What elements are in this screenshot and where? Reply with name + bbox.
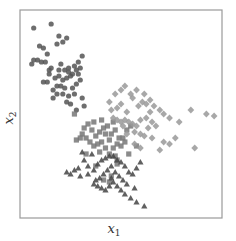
square-marker	[82, 125, 87, 130]
diamond-marker	[106, 99, 113, 106]
circle-marker	[60, 77, 65, 82]
diamond-marker	[166, 141, 173, 148]
circle-marker	[72, 91, 77, 96]
triangle-marker	[131, 185, 137, 191]
triangle-marker	[112, 169, 118, 175]
triangle-marker	[77, 173, 83, 179]
circle-marker	[51, 87, 56, 92]
diamond-marker	[133, 87, 140, 94]
triangle-marker	[137, 159, 143, 165]
diamond-marker	[187, 107, 194, 114]
circle-marker	[51, 95, 56, 100]
diamond-marker	[191, 145, 198, 152]
circle-marker	[49, 21, 54, 26]
circle-marker	[60, 91, 65, 96]
square-marker	[99, 117, 104, 122]
circle-marker	[82, 103, 87, 108]
circle-marker	[76, 71, 81, 76]
diamond-marker	[131, 129, 138, 136]
y-axis-label: x2	[1, 111, 18, 124]
diamond-marker	[112, 91, 119, 98]
circle-marker	[45, 51, 50, 56]
triangle-marker	[81, 157, 87, 163]
diamond-marker	[211, 113, 218, 120]
diamond-marker	[203, 111, 210, 118]
triangle-marker	[108, 163, 114, 169]
data-points	[29, 21, 217, 208]
square-marker	[97, 149, 102, 154]
circle-marker	[66, 93, 71, 98]
triangle-marker	[75, 165, 81, 171]
square-marker	[89, 127, 94, 132]
circle-marker	[66, 65, 71, 70]
triangle-marker	[64, 169, 70, 175]
circle-marker	[70, 85, 75, 90]
circle-marker	[43, 59, 48, 64]
circle-marker	[54, 41, 59, 46]
diamond-marker	[172, 135, 179, 142]
circle-marker	[80, 53, 85, 58]
triangle-marker	[89, 151, 95, 157]
diamond-marker	[176, 119, 183, 126]
circle-marker	[54, 91, 59, 96]
square-marker	[103, 131, 108, 136]
diamond-marker	[143, 115, 150, 122]
diamond-marker	[108, 107, 115, 114]
plot-frame	[20, 10, 222, 218]
circle-marker	[31, 57, 36, 62]
circle-marker	[52, 75, 57, 80]
square-marker	[126, 151, 131, 156]
triangle-marker	[85, 163, 91, 169]
circle-marker	[31, 25, 36, 30]
diamond-marker	[151, 103, 158, 110]
circle-marker	[56, 67, 61, 72]
diamond-marker	[145, 125, 152, 132]
diamond-marker	[147, 109, 154, 116]
circle-marker	[41, 79, 46, 84]
diamond-marker	[160, 139, 167, 146]
triangle-marker	[133, 199, 139, 205]
circle-marker	[76, 59, 81, 64]
circle-marker	[49, 65, 54, 70]
diamond-marker	[149, 135, 156, 142]
square-marker	[91, 119, 96, 124]
square-marker	[103, 145, 108, 150]
diamond-marker	[141, 91, 148, 98]
scatter-chart: x1 x2	[0, 0, 236, 241]
circle-marker	[78, 77, 83, 82]
triangle-marker	[126, 169, 132, 175]
square-marker	[122, 139, 127, 144]
circle-marker	[74, 81, 79, 86]
square-marker	[74, 137, 79, 142]
circle-marker	[47, 71, 52, 76]
circle-marker	[68, 101, 73, 106]
square-marker	[87, 139, 92, 144]
diamond-marker	[137, 117, 144, 124]
square-marker	[107, 137, 112, 142]
triangle-marker	[85, 171, 91, 177]
square-marker	[72, 111, 77, 116]
diamond-marker	[166, 115, 173, 122]
circle-marker	[41, 45, 46, 50]
triangle-marker	[133, 165, 139, 171]
circle-marker	[56, 33, 61, 38]
diamond-marker	[156, 147, 163, 154]
circle-marker	[64, 35, 69, 40]
circle-marker	[60, 39, 65, 44]
triangle-marker	[141, 203, 147, 209]
circle-marker	[58, 61, 63, 66]
square-marker	[105, 123, 110, 128]
diamond-marker	[123, 109, 130, 116]
x-axis-label: x1	[107, 221, 120, 238]
series-circles	[29, 21, 87, 112]
circle-marker	[80, 95, 85, 100]
square-marker	[113, 127, 118, 132]
circle-marker	[62, 85, 67, 90]
triangle-marker	[128, 195, 134, 201]
